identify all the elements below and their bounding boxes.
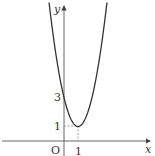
x-tick-label-1: 1 — [75, 145, 82, 156]
y-axis-label: y — [53, 3, 61, 16]
origin-label: O — [51, 144, 60, 156]
parabola-curve — [49, 2, 107, 126]
graph-canvas: y x O 1 1 3 — [0, 0, 155, 156]
y-tick-label-1: 1 — [54, 120, 61, 133]
x-axis-label: x — [145, 143, 152, 156]
y-tick-label-3: 3 — [54, 91, 61, 104]
